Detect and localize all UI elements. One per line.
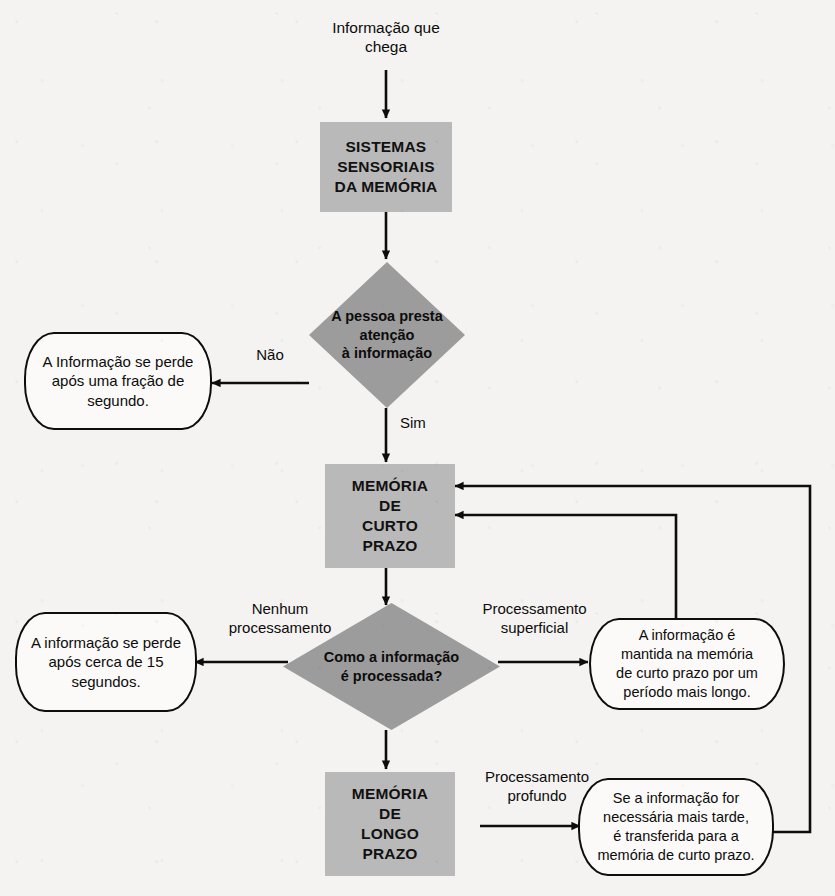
node-sensory-line-3: DA MEMÓRIA	[334, 177, 437, 197]
node-attention-decision[interactable]: A pessoa presta atenção à informação	[309, 262, 465, 408]
short-term-line-2: DE	[352, 496, 428, 516]
node-sensory-line-2: SENSORIAIS	[334, 157, 437, 177]
processing-line-1: Como a informação	[324, 649, 459, 665]
flowchart-canvas: Informação que chega SISTEMAS SENSORIAIS…	[0, 0, 835, 896]
node-lost-after-fraction[interactable]: A Informação se perde após uma fração de…	[24, 332, 212, 430]
transferred-line-2: necessária mais tarde,	[603, 809, 749, 825]
node-kept-longer[interactable]: A informação é mantida na memória de cur…	[589, 618, 785, 710]
transferred-line-4: memória de curto prazo.	[597, 847, 754, 863]
kept-longer-line-3: de curto prazo por um	[616, 665, 758, 681]
kept-longer-line-1: A informação é	[639, 627, 736, 643]
lost-fraction-line-2: após uma fração de	[52, 372, 185, 389]
attention-text: A pessoa presta atenção à informação	[309, 262, 465, 408]
lost-fraction-line-3: segundo.	[87, 392, 149, 409]
short-term-line-4: PRAZO	[352, 536, 428, 556]
node-short-term-memory[interactable]: MEMÓRIA DE CURTO PRAZO	[325, 464, 455, 568]
edge-label-deep-processing: Processamento profundo	[457, 768, 617, 806]
node-sensory-line-1: SISTEMAS	[334, 137, 437, 157]
node-attention-line-2: atenção	[360, 327, 415, 343]
node-lost-after-15-seconds[interactable]: A informação se perde após cerca de 15 s…	[15, 612, 197, 712]
transferred-line-3: é transferida para a	[613, 828, 739, 844]
node-attention-line-1: A pessoa presta	[331, 308, 442, 324]
processing-line-2: é processada?	[341, 668, 443, 684]
lost-15s-line-3: segundos.	[71, 673, 140, 690]
long-term-line-1: MEMÓRIA	[352, 784, 428, 804]
node-long-term-memory[interactable]: MEMÓRIA DE LONGO PRAZO	[325, 772, 455, 876]
edge-label-shallow-processing: Processamento superficial	[452, 600, 617, 638]
kept-longer-line-2: mantida na memória	[621, 646, 753, 662]
long-term-line-3: LONGO	[352, 824, 428, 844]
edge-label-no: Não	[240, 346, 300, 365]
node-sensory-systems[interactable]: SISTEMAS SENSORIAIS DA MEMÓRIA	[320, 122, 452, 212]
kept-longer-line-4: período mais longo.	[623, 684, 750, 700]
long-term-line-4: PRAZO	[352, 844, 428, 864]
entry-label: Informação que chega	[286, 18, 486, 57]
short-term-line-1: MEMÓRIA	[352, 476, 428, 496]
lost-fraction-line-1: A Informação se perde	[43, 353, 194, 370]
short-term-line-3: CURTO	[352, 516, 428, 536]
lost-15s-line-1: A informação se perde	[31, 634, 181, 651]
lost-15s-line-2: após cerca de 15	[48, 653, 163, 670]
transferred-line-1: Se a informação for	[613, 790, 740, 806]
node-attention-line-3: à informação	[342, 345, 432, 361]
edge-label-yes: Sim	[400, 414, 450, 433]
edge-label-no-processing: Nenhum processamento	[205, 600, 355, 638]
long-term-line-2: DE	[352, 804, 428, 824]
